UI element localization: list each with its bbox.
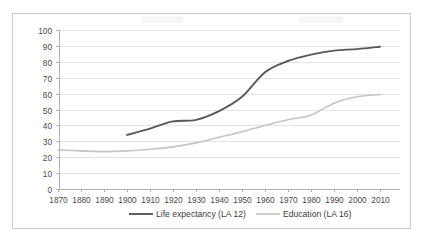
axis-lines <box>59 30 400 190</box>
y-axis-tick-label: 0 <box>47 185 52 195</box>
x-axis-tick-label: 1880 <box>72 195 91 205</box>
x-axis-tick-label: 1960 <box>256 195 275 205</box>
x-axis-tick-label: 2000 <box>348 195 367 205</box>
x-axis-tick-label: 1950 <box>233 195 252 205</box>
y-axis-tick-label: 20 <box>43 153 53 163</box>
y-axis-tick-label: 50 <box>43 106 53 116</box>
series-line-life-expectancy <box>127 47 380 135</box>
x-axis-tick-label: 1970 <box>279 195 298 205</box>
chart-legend: Life expectancy (LA 12)Education (LA 16) <box>129 209 351 219</box>
x-axis-tick-label: 2010 <box>371 195 390 205</box>
y-axis-tick-label: 40 <box>43 121 53 131</box>
series-line-education <box>58 94 380 151</box>
gridlines <box>59 31 400 190</box>
x-axis-tick-label: 1930 <box>187 195 206 205</box>
y-axis-tick-label: 10 <box>43 169 53 179</box>
x-axis-tick-label: 1920 <box>164 195 183 205</box>
y-axis-tick-label: 70 <box>43 74 53 84</box>
line-chart: 0102030405060708090100 18701880189019001… <box>13 14 412 230</box>
y-axis-tick-label: 30 <box>43 137 53 147</box>
x-axis-tick-label: 1900 <box>118 195 137 205</box>
x-axis-tick-label: 1890 <box>95 195 114 205</box>
x-axis-tick-label: 1980 <box>302 195 321 205</box>
x-axis-tick-label: 1870 <box>49 195 68 205</box>
plot-area: 0102030405060708090100 18701880189019001… <box>13 14 412 230</box>
y-axis-tick-label: 60 <box>43 90 53 100</box>
x-axis-tick-label: 1910 <box>141 195 160 205</box>
legend-label-life-expectancy: Life expectancy (LA 12) <box>156 209 246 219</box>
chart-figure: 0102030405060708090100 18701880189019001… <box>12 13 411 229</box>
y-axis-tick-label: 80 <box>43 58 53 68</box>
y-axis-ticks: 0102030405060708090100 <box>38 26 59 195</box>
y-axis-tick-label: 100 <box>38 26 52 36</box>
legend-label-education: Education (LA 16) <box>283 209 351 219</box>
x-axis-tick-label: 1990 <box>325 195 344 205</box>
x-axis-ticks: 1870188018901900191019201930194019501960… <box>49 189 390 205</box>
y-axis-tick-label: 90 <box>43 42 53 52</box>
x-axis-tick-label: 1940 <box>210 195 229 205</box>
